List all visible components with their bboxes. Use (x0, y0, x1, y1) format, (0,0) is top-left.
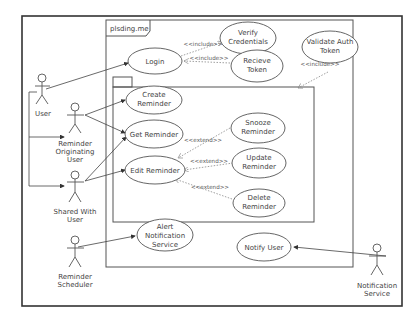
extend-update-edit (184, 163, 233, 170)
svg-text:Shared With: Shared With (54, 208, 97, 216)
include-validate-package (298, 72, 328, 88)
svg-text:Token: Token (246, 66, 267, 74)
assoc-notification-notify (294, 247, 386, 256)
actor-reminder-originating-user[interactable]: Reminder Originating User (55, 103, 94, 164)
use-case-recieve-token[interactable]: Recieve Token (231, 50, 283, 82)
use-case-alert-notification-service[interactable]: Alert Notification Service (137, 219, 193, 251)
actor-notification-service[interactable]: Notification Service (357, 244, 397, 298)
system-frame-label: plsding.me (110, 25, 149, 33)
extend-label: <<extend>> (190, 158, 228, 164)
svg-text:Update: Update (246, 154, 271, 162)
stick-figure-icon (369, 244, 386, 275)
svg-text:Notify User: Notify User (245, 244, 284, 252)
assoc-shared-edit (85, 170, 125, 181)
include-label: <<include>> (183, 41, 222, 47)
use-case-update-reminder[interactable]: Update Reminder (232, 148, 286, 178)
svg-text:Alert: Alert (157, 223, 174, 231)
svg-text:Reminder: Reminder (58, 140, 92, 148)
stick-figure-icon (35, 74, 50, 104)
use-case-notify-user[interactable]: Notify User (237, 233, 291, 261)
svg-text:Service: Service (152, 241, 178, 249)
svg-text:Originating: Originating (55, 148, 94, 156)
include-login-receive (184, 61, 230, 63)
svg-text:Create: Create (142, 91, 165, 99)
svg-text:Token: Token (319, 47, 340, 55)
assoc-originating-create (85, 100, 125, 115)
use-case-create-reminder[interactable]: Create Reminder (126, 86, 182, 114)
use-case-validate-auth-token[interactable]: Validate Auth Token (302, 31, 358, 63)
svg-text:Service: Service (364, 290, 390, 298)
use-case-login[interactable]: Login (128, 48, 182, 74)
use-case-snooze-reminder[interactable]: Snooze Reminder (231, 113, 285, 143)
svg-text:Reminder: Reminder (137, 100, 171, 108)
use-case-edit-reminder[interactable]: Edit Reminder (125, 156, 185, 184)
svg-text:Reminder: Reminder (241, 128, 275, 136)
svg-text:Edit Reminder: Edit Reminder (130, 167, 180, 175)
svg-text:User: User (35, 110, 51, 118)
svg-text:Scheduler: Scheduler (57, 281, 92, 289)
use-case-verify-credentials[interactable]: Verify Credentials (220, 22, 276, 54)
svg-text:Validate Auth: Validate Auth (307, 38, 354, 46)
svg-text:Verify: Verify (238, 29, 258, 37)
svg-text:Login: Login (146, 58, 165, 66)
stick-figure-icon (67, 171, 84, 202)
svg-text:Credentials: Credentials (228, 38, 268, 46)
svg-text:Notification: Notification (357, 282, 397, 290)
assoc-user-login (46, 63, 128, 89)
svg-text:Get Reminder: Get Reminder (130, 131, 179, 139)
stick-figure-icon (67, 236, 84, 267)
svg-text:Recieve: Recieve (243, 57, 270, 65)
actor-user[interactable]: User (35, 74, 51, 118)
stick-figure-icon (67, 103, 84, 133)
svg-text:Reminder: Reminder (242, 203, 276, 211)
use-case-get-reminder[interactable]: Get Reminder (125, 120, 183, 148)
svg-text:User: User (67, 216, 83, 224)
assoc-originating-get (85, 115, 125, 133)
actor-reminder-scheduler[interactable]: Reminder Scheduler (57, 236, 92, 289)
extend-label: <<extend>> (184, 137, 222, 143)
svg-text:Reminder: Reminder (242, 163, 276, 171)
svg-text:Notification: Notification (145, 232, 185, 240)
include-label: <<include>> (189, 55, 228, 61)
extend-snooze-get (178, 128, 230, 158)
extend-label: <<extend>> (191, 184, 229, 190)
svg-text:Reminder: Reminder (58, 273, 92, 281)
svg-text:User: User (67, 156, 83, 164)
svg-text:Snooze: Snooze (245, 119, 270, 127)
use-case-delete-reminder[interactable]: Delete Reminder (233, 189, 285, 217)
use-case-diagram: plsding.me <<include>> <<include>> <<inc… (0, 0, 418, 320)
actor-shared-with-user[interactable]: Shared With User (54, 171, 97, 224)
svg-text:Delete: Delete (248, 194, 271, 202)
